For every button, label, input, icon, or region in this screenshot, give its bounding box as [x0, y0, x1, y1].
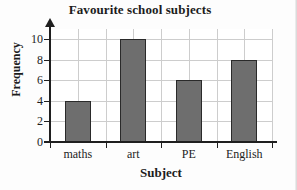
y-axis-tick-label: 2	[3, 115, 43, 127]
x-axis-tick-mark	[161, 143, 162, 148]
bar-maths	[65, 101, 91, 142]
x-axis-tick-mark	[272, 143, 273, 148]
gridline-vertical	[161, 29, 162, 142]
gridline-vertical	[272, 29, 273, 142]
x-axis-tick-mark	[217, 143, 218, 148]
gridline-vertical	[106, 29, 107, 142]
page-edge-rule	[295, 0, 297, 190]
y-axis-tick-mark	[44, 60, 50, 61]
x-axis-title: Subject	[50, 165, 272, 181]
x-axis-tick-label: English	[204, 147, 284, 162]
y-axis-title: Frequency	[9, 28, 24, 112]
y-axis-tick-mark	[44, 101, 50, 102]
y-axis-tick-mark	[44, 39, 50, 40]
y-axis-line	[49, 25, 51, 143]
gridline-vertical	[217, 29, 218, 142]
x-axis-tick-mark	[50, 143, 51, 148]
bar-english	[231, 60, 257, 142]
x-axis-tick-mark	[106, 143, 107, 148]
y-axis-tick-mark	[44, 80, 50, 81]
bar-art	[120, 39, 146, 142]
bar-chart-figure: Favourite school subjects 0246810 Freque…	[0, 0, 297, 190]
y-axis-tick-mark	[44, 121, 50, 122]
bar-pe	[176, 80, 202, 142]
plot-area	[50, 29, 272, 142]
